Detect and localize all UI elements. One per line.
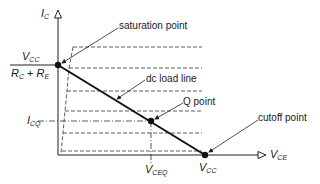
vceq-label: VCEQ xyxy=(145,164,168,176)
characteristic-curves xyxy=(61,47,202,153)
q-point-label: Q point xyxy=(183,97,215,107)
saturation-point xyxy=(55,62,61,68)
cutoff-point xyxy=(202,152,208,158)
cutoff-point-label: cutoff point xyxy=(258,113,307,123)
q-point-leader-arrow xyxy=(155,103,183,119)
q-point xyxy=(148,118,154,124)
dc-load-line-label: dc load line xyxy=(146,74,197,84)
y-axis-arrow-icon xyxy=(55,10,62,18)
y-axis-label: IC xyxy=(41,8,49,20)
x-axis-arrow-icon xyxy=(258,152,266,159)
axes xyxy=(58,18,258,155)
saturation-point-label: saturation point xyxy=(119,21,187,31)
cutoff-leader-arrow xyxy=(209,120,258,152)
x-axis-label: VCE xyxy=(270,149,287,161)
y-intercept-denominator: RC + RE xyxy=(11,68,49,80)
saturation-leader-arrow xyxy=(62,28,118,63)
icq-label: ICQ xyxy=(27,115,41,127)
vcc-label: VCC xyxy=(199,162,216,174)
load-line-leader-arrow xyxy=(117,80,145,99)
y-intercept-numerator: VCC xyxy=(22,51,39,63)
